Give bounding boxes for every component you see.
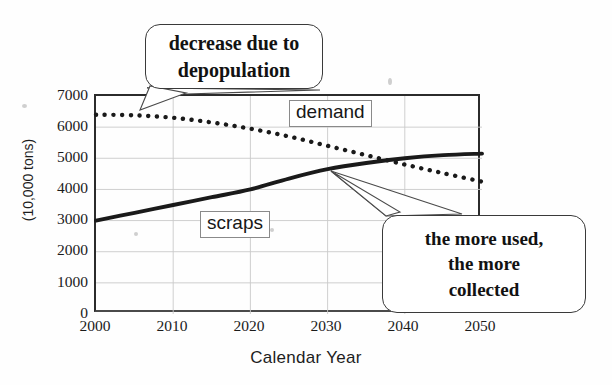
- callout-collected-line1: the more used,: [425, 226, 543, 252]
- callout-depopulation: decrease due to depopulation: [145, 24, 323, 89]
- callout-depopulation-line2: depopulation: [178, 57, 290, 83]
- callout-collected-line3: collected: [449, 277, 520, 303]
- callout-collected: the more used, the more collected: [382, 215, 586, 313]
- chart-figure: (10,000 tons) 7000 6000 5000 4000 3000 2…: [0, 0, 612, 385]
- leader-wedge-collected: [331, 171, 462, 216]
- callout-collected-line2: the more: [448, 251, 520, 277]
- callout-depopulation-line1: decrease due to: [169, 30, 300, 56]
